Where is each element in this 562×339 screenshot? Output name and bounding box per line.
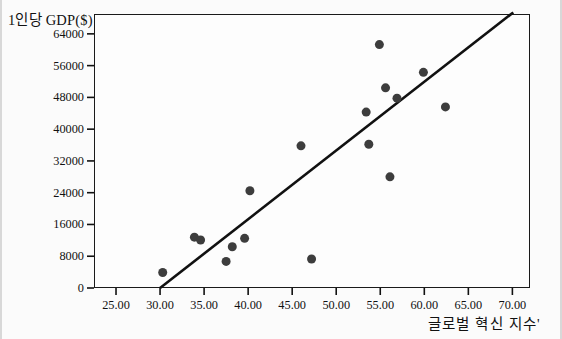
y-tick-label: 16000 bbox=[30, 217, 84, 232]
data-point bbox=[245, 186, 254, 195]
x-axis-title: 글로벌 혁신 지수' bbox=[428, 312, 541, 333]
x-tick-label: 50.00 bbox=[322, 298, 350, 313]
scatter-plot-figure: 1인당 GDP($) 08000160002400032000400004800… bbox=[0, 0, 562, 339]
x-tick-label: 30.00 bbox=[146, 298, 174, 313]
data-point bbox=[228, 242, 237, 251]
y-tick-label: 64000 bbox=[30, 26, 84, 41]
data-point bbox=[392, 94, 401, 103]
y-tick-label: 8000 bbox=[30, 249, 84, 264]
chart-canvas bbox=[0, 0, 562, 339]
data-point bbox=[375, 40, 384, 49]
y-tick-label: 40000 bbox=[30, 122, 84, 137]
y-tick-label: 56000 bbox=[30, 58, 84, 73]
tick-marks-group bbox=[87, 34, 512, 295]
data-point bbox=[196, 235, 205, 244]
x-tick-label: 65.00 bbox=[454, 298, 482, 313]
data-point bbox=[307, 255, 316, 264]
trendline-group bbox=[160, 12, 513, 288]
data-points-group bbox=[158, 40, 450, 277]
data-point bbox=[381, 83, 390, 92]
x-tick-label: 25.00 bbox=[102, 298, 130, 313]
data-point bbox=[296, 141, 305, 150]
x-tick-label: 70.00 bbox=[499, 298, 527, 313]
x-tick-label: 35.00 bbox=[190, 298, 218, 313]
x-tick-label: 45.00 bbox=[278, 298, 306, 313]
data-point bbox=[222, 257, 231, 266]
data-point bbox=[240, 234, 249, 243]
data-point bbox=[419, 68, 428, 77]
y-tick-label: 24000 bbox=[30, 185, 84, 200]
x-tick-label: 40.00 bbox=[234, 298, 262, 313]
x-tick-label: 60.00 bbox=[410, 298, 438, 313]
y-tick-label: 0 bbox=[30, 281, 84, 296]
x-tick-label: 55.00 bbox=[366, 298, 394, 313]
data-point bbox=[364, 140, 373, 149]
data-point bbox=[385, 172, 394, 181]
y-tick-label: 48000 bbox=[30, 90, 84, 105]
data-point bbox=[158, 268, 167, 277]
regression-line bbox=[160, 12, 513, 288]
data-point bbox=[441, 102, 450, 111]
y-tick-label: 32000 bbox=[30, 153, 84, 168]
data-point bbox=[362, 108, 371, 117]
